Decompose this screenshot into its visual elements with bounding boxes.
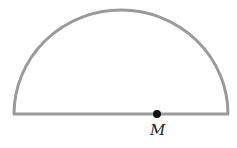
point-m [153,110,161,118]
semicircle-arc [14,10,228,114]
semicircle-diagram: M [0,0,237,148]
point-m-label: M [149,121,166,139]
